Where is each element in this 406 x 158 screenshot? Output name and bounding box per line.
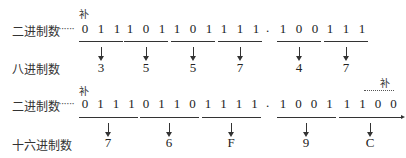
group-underline xyxy=(277,117,336,118)
binary-digit: 0 xyxy=(188,96,198,112)
converted-digit: 6 xyxy=(162,135,176,151)
underline-arrowhead-icon xyxy=(401,115,405,119)
group-underline xyxy=(277,41,321,42)
binary-digit: 1 xyxy=(203,96,213,112)
binary-digit: 0 xyxy=(389,96,399,112)
binary-digit: 1 xyxy=(234,96,244,112)
binary-digit: 1 xyxy=(358,96,368,112)
down-arrow-icon xyxy=(169,123,170,133)
pad-dotted-line-row2-right xyxy=(364,90,394,91)
converted-digit: 7 xyxy=(339,60,353,76)
converted-digit: 7 xyxy=(233,60,247,76)
down-arrow-icon xyxy=(370,123,371,133)
group-underline xyxy=(79,117,138,118)
binary-digit: 1 xyxy=(125,21,135,37)
binary-digit: 0 xyxy=(188,21,198,37)
binary-digit: 1 xyxy=(172,96,182,112)
converted-digit: 4 xyxy=(292,60,306,76)
binary-digit: 1 xyxy=(278,96,288,112)
pad-mark-row1-left: 补 xyxy=(79,6,89,21)
group-underline xyxy=(324,41,368,42)
converted-digit: 5 xyxy=(139,60,153,76)
down-arrow-icon xyxy=(101,47,102,57)
binary-digit: 1 xyxy=(341,21,351,37)
down-arrow-icon xyxy=(306,123,307,133)
converted-digit: C xyxy=(363,135,377,151)
binary-digit: 0 xyxy=(310,21,320,37)
binary-label-row1: 二进制数 xyxy=(12,22,60,39)
converted-digit: F xyxy=(224,135,238,151)
group-underline xyxy=(202,117,261,118)
binary-digit: 1 xyxy=(127,96,137,112)
binary-digit: 1 xyxy=(357,21,367,37)
binary-digit: 0 xyxy=(373,96,383,112)
binary-digit: 1 xyxy=(250,96,260,112)
converted-digit: 7 xyxy=(101,135,115,151)
binary-digit: 1 xyxy=(219,96,229,112)
binary-digit: 1 xyxy=(111,96,121,112)
leader-dots-row1: ······ xyxy=(58,22,74,34)
binary-digit: 1 xyxy=(325,21,335,37)
binary-digit: 1 xyxy=(112,21,122,37)
converted-digit: 5 xyxy=(186,60,200,76)
binary-label-row2: 二进制数 xyxy=(12,97,60,114)
hex-label: 十六进制数 xyxy=(12,136,72,153)
binary-digit: 1 xyxy=(235,21,245,37)
down-arrow-icon xyxy=(346,47,347,57)
pad-mark-row2-right: 补 xyxy=(380,75,390,90)
binary-digit: 1 xyxy=(219,21,229,37)
group-underline xyxy=(339,117,402,118)
down-arrow-icon xyxy=(108,123,109,133)
binary-digit: 0 xyxy=(309,96,319,112)
radix-point-row1: . xyxy=(266,20,269,36)
group-underline xyxy=(171,41,215,42)
binary-digit: 1 xyxy=(204,21,214,37)
binary-digit: 1 xyxy=(172,21,182,37)
down-arrow-icon xyxy=(231,123,232,133)
binary-digit: 1 xyxy=(157,96,167,112)
binary-digit: 1 xyxy=(96,21,106,37)
converted-digit: 9 xyxy=(299,135,313,151)
group-underline xyxy=(79,41,123,42)
binary-digit: 0 xyxy=(294,96,304,112)
binary-digit: 1 xyxy=(278,21,288,37)
group-underline xyxy=(218,41,262,42)
binary-digit: 1 xyxy=(325,96,335,112)
down-arrow-icon xyxy=(240,47,241,57)
group-underline xyxy=(140,117,199,118)
binary-digit: 1 xyxy=(157,21,167,37)
binary-digit: 0 xyxy=(141,96,151,112)
down-arrow-icon xyxy=(146,47,147,57)
down-arrow-icon xyxy=(193,47,194,57)
octal-label: 八进制数 xyxy=(12,60,60,77)
binary-digit: 1 xyxy=(251,21,261,37)
binary-digit: 0 xyxy=(80,21,90,37)
binary-digit: 0 xyxy=(141,21,151,37)
binary-digit: 0 xyxy=(294,21,304,37)
group-underline xyxy=(124,41,168,42)
leader-dots-row2: ······ xyxy=(58,97,74,109)
binary-digit: 0 xyxy=(80,96,90,112)
binary-digit: 1 xyxy=(96,96,106,112)
down-arrow-icon xyxy=(299,47,300,57)
radix-point-row2: . xyxy=(266,95,269,111)
converted-digit: 3 xyxy=(94,60,108,76)
binary-digit: 1 xyxy=(342,96,352,112)
